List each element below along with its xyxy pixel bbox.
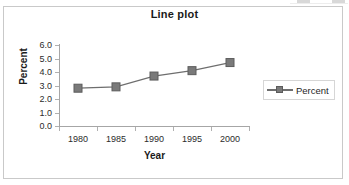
- y-axis-tick-label: 1.0: [26, 108, 52, 118]
- y-axis-tick: [55, 113, 59, 114]
- y-axis-tick-label: 4.0: [26, 67, 52, 77]
- x-axis-tick: [173, 127, 174, 131]
- x-axis-tick: [97, 127, 98, 131]
- legend-square-marker-icon: [276, 86, 283, 93]
- chart-screenshot: Line plot 6.05.04.03.02.01.00.0 19801985…: [0, 0, 349, 185]
- x-axis-tick: [59, 127, 60, 131]
- x-axis-tick: [135, 127, 136, 131]
- y-axis-title: Percent: [18, 37, 29, 97]
- y-axis-tick: [55, 99, 59, 100]
- y-axis-tick-label: 6.0: [26, 40, 52, 50]
- x-axis-tick-label: 1995: [182, 134, 202, 144]
- x-axis-tick: [249, 127, 250, 131]
- chart-title: Line plot: [0, 8, 349, 20]
- y-axis-tick: [55, 59, 59, 60]
- scan-artifact: [290, 3, 348, 4]
- x-axis-line: [59, 126, 250, 127]
- x-axis-tick-label: 1985: [106, 134, 126, 144]
- y-axis-tick-label: 0.0: [26, 121, 52, 131]
- x-axis-tick-label: 1990: [144, 134, 164, 144]
- x-axis-title: Year: [59, 150, 250, 161]
- x-axis-tick-label: 1980: [68, 134, 88, 144]
- y-axis-tick: [55, 45, 59, 46]
- legend-key-icon: [267, 85, 293, 95]
- legend-label: Percent: [296, 85, 329, 96]
- y-axis-line: [59, 44, 60, 127]
- x-axis-tick-label: 2000: [220, 134, 240, 144]
- chart-legend: Percent: [263, 80, 335, 100]
- y-axis-tick-label: 2.0: [26, 94, 52, 104]
- y-axis-tick-label: 3.0: [26, 81, 52, 91]
- y-axis-tick-label: 5.0: [26, 54, 52, 64]
- y-axis-tick: [55, 72, 59, 73]
- x-axis-tick: [211, 127, 212, 131]
- y-axis-tick: [55, 86, 59, 87]
